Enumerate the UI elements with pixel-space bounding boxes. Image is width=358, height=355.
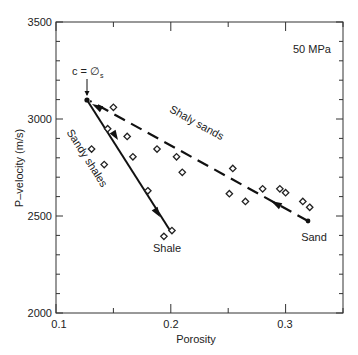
chart-canvas: 3500 3000 2500 2000 0.1 0.2 0.3 Porosity… [0,0,358,355]
c-label: c = ∅s [72,65,104,79]
data-point [161,233,167,239]
data-point [110,104,116,110]
arrow-icon [85,91,90,96]
sand-point [306,219,311,224]
data-point [179,169,185,175]
data-point [259,186,265,192]
x-tick-label: 0.1 [51,318,66,330]
data-point [242,198,248,204]
data-point [130,154,136,160]
y-tick-label: 2000 [28,307,52,319]
y-axis-label: P–velocity (m/s) [13,129,25,207]
x-tick-label: 0.3 [277,318,292,330]
data-point [277,186,283,192]
data-point [104,126,110,132]
vertex-point [84,97,89,102]
data-point [154,146,160,152]
data-point [124,133,130,139]
y-tick-label: 3000 [28,113,52,125]
data-point [307,204,313,210]
x-tick-label: 0.2 [163,318,178,330]
y-tick-label: 3500 [28,16,52,28]
data-point [226,190,232,196]
shaly-sands-label: Shaly sands [168,103,227,143]
data-point [282,190,288,196]
data-point [101,161,107,167]
data-point [230,165,236,171]
sandy-shales-label: Sandy shales [65,127,111,190]
x-axis-label: Porosity [176,333,216,345]
sand-label: Sand [301,231,327,243]
shale-label: Shale [153,242,181,254]
y-tick-label: 2500 [28,210,52,222]
pressure-label: 50 MPa [293,43,332,55]
data-point [300,198,306,204]
data-point [173,154,179,160]
